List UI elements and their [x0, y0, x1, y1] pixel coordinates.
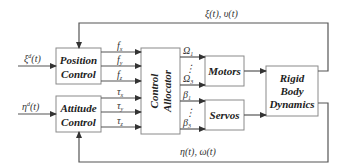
fz-label: fz: [117, 69, 123, 81]
control-allocator-label-1: Control: [148, 73, 160, 109]
position-control-label-2: Control: [61, 68, 97, 80]
attitude-control-label-2: Control: [61, 116, 97, 128]
control-allocator-label-2: Allocator: [161, 69, 173, 113]
omega-1-label: Ω1: [183, 45, 193, 57]
position-feedback-label: ξ(t), υ(t): [205, 8, 238, 20]
tau-z-label: τz: [117, 115, 124, 127]
fy-label: fy: [117, 54, 123, 66]
motors-label: Motors: [207, 65, 240, 77]
tau-y-label: τy: [117, 100, 124, 112]
rigid-body-label-1: Rigid: [279, 72, 305, 84]
omega-3-label: Ω3: [183, 73, 193, 85]
beta-3-label: β3: [182, 117, 191, 129]
rigid-body-label-2: Body: [279, 85, 303, 97]
tau-x-label: τx: [117, 86, 124, 98]
beta-1-label: β1: [182, 89, 191, 101]
control-block-diagram: Position Control Attitude Control Contro…: [0, 0, 346, 168]
attitude-control-label-1: Attitude: [59, 102, 96, 114]
fx-label: fx: [117, 40, 123, 52]
position-control-label-1: Position: [60, 54, 97, 66]
xi-d-input-label: ξd(t): [24, 53, 41, 65]
servos-label: Servos: [210, 109, 240, 121]
attitude-feedback-label: η(t), ω(t): [180, 146, 217, 158]
rigid-body-label-3: Dynamics: [268, 98, 314, 110]
eta-d-input-label: ηd(t): [22, 101, 40, 113]
